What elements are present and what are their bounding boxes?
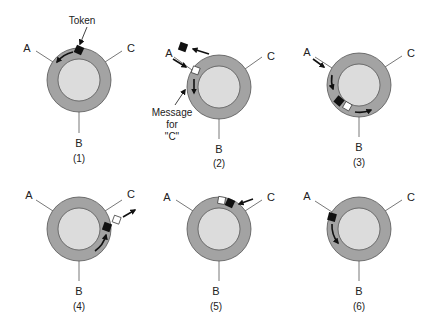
station-c-label: C bbox=[407, 191, 415, 203]
station-c-link bbox=[245, 57, 262, 69]
panel-caption: (6) bbox=[353, 301, 365, 312]
station-c-link bbox=[105, 200, 122, 211]
station-a-link bbox=[176, 200, 193, 211]
message-icon bbox=[112, 215, 121, 224]
station-a-label: A bbox=[23, 42, 31, 54]
token-ring-diagram: Token A C B (1) Message for "C" A C B (2… bbox=[0, 0, 437, 333]
station-b-label: B bbox=[355, 285, 362, 297]
station-c-label: C bbox=[267, 191, 275, 203]
message-label: "C" bbox=[165, 131, 180, 142]
arrow-icon bbox=[239, 199, 253, 204]
ring bbox=[187, 197, 251, 261]
message-icon bbox=[218, 196, 226, 204]
station-a-label: A bbox=[165, 47, 173, 59]
station-a-label: A bbox=[303, 190, 311, 202]
station-c-link bbox=[105, 51, 122, 62]
panel-caption: (4) bbox=[73, 301, 85, 312]
message-label: Message bbox=[152, 107, 193, 118]
station-b-label: B bbox=[355, 141, 362, 153]
station-a-link bbox=[174, 57, 192, 70]
ring bbox=[327, 53, 391, 117]
station-c-label: C bbox=[267, 50, 275, 62]
panel-caption: (5) bbox=[210, 301, 222, 312]
station-a-link bbox=[36, 200, 53, 211]
panel-1: Token A C B (1) bbox=[23, 15, 135, 164]
station-a-link bbox=[315, 201, 332, 212]
arrow-icon bbox=[193, 49, 209, 54]
arrow-icon bbox=[173, 59, 186, 67]
station-c-label: C bbox=[407, 47, 415, 59]
station-c-label: C bbox=[127, 42, 135, 54]
panel-5: A C B (5) bbox=[163, 191, 275, 312]
station-b-label: B bbox=[212, 285, 219, 297]
token-pointer-icon bbox=[80, 27, 87, 44]
station-a-label: A bbox=[303, 46, 311, 58]
station-c-label: C bbox=[127, 188, 135, 200]
panel-4: A C B (4) bbox=[25, 188, 135, 312]
panel-caption: (1) bbox=[73, 153, 85, 164]
panel-6: A C B (6) bbox=[303, 190, 415, 312]
message-label: for bbox=[166, 119, 178, 130]
panel-caption: (3) bbox=[353, 157, 365, 168]
station-a-label: A bbox=[163, 191, 171, 203]
ring bbox=[187, 55, 251, 119]
panel-caption: (2) bbox=[213, 158, 225, 169]
station-c-link bbox=[385, 56, 402, 67]
arrow-icon bbox=[313, 59, 324, 67]
station-a-label: A bbox=[25, 189, 33, 201]
station-b-label: B bbox=[75, 285, 82, 297]
message-pointer-icon bbox=[175, 90, 185, 105]
token-icon bbox=[178, 42, 188, 52]
panel-2: Message for "C" A C B (2) bbox=[152, 42, 275, 169]
ring bbox=[327, 197, 391, 261]
station-b-label: B bbox=[215, 143, 222, 155]
panel-3: A C B (3) bbox=[303, 46, 415, 168]
ring bbox=[47, 197, 111, 261]
station-c-link bbox=[385, 200, 402, 211]
arrow-icon bbox=[123, 210, 135, 217]
ring bbox=[47, 48, 111, 112]
token-label: Token bbox=[69, 15, 96, 26]
station-a-link bbox=[36, 51, 53, 62]
station-b-label: B bbox=[75, 137, 82, 149]
